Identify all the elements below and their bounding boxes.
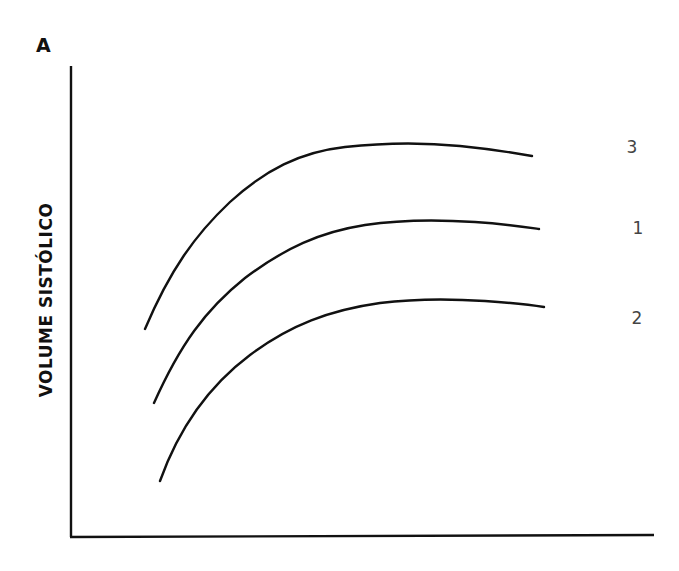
series-label-2: 2 bbox=[632, 310, 643, 327]
x-axis-line bbox=[70, 535, 654, 537]
curve-1 bbox=[154, 220, 539, 403]
curve-2 bbox=[160, 299, 544, 481]
series-label-1: 1 bbox=[633, 220, 644, 237]
series-label-3: 3 bbox=[627, 139, 638, 156]
chart-plot-area bbox=[0, 0, 679, 571]
